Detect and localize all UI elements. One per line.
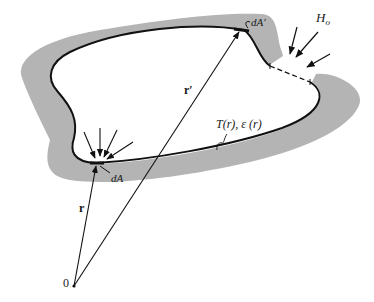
r-label: r — [79, 201, 85, 215]
vector-r — [74, 166, 96, 286]
dA-prime-label: dA′ — [251, 16, 266, 28]
dA-label: dA — [111, 172, 124, 184]
surface-properties-label: T(r), ε (r) — [216, 117, 262, 131]
enclosure-diagram: 0 r r′ dA dA′ Ho T(r), ε (r) — [0, 0, 374, 302]
origin-point — [72, 284, 75, 287]
irradiation-label: Ho — [315, 10, 330, 27]
irradiation-arrows — [290, 27, 330, 67]
r-prime-label: r′ — [184, 83, 193, 97]
origin-label: 0 — [63, 276, 69, 290]
